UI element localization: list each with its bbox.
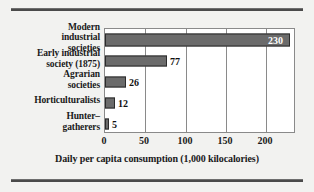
x-tick-label: 150: [218, 135, 233, 146]
category-label: Horticulturalists: [0, 95, 100, 106]
plot-area: 2307726125: [104, 28, 295, 133]
bar-value-label: 26: [129, 76, 139, 87]
bar[interactable]: [105, 33, 290, 46]
bar[interactable]: [105, 76, 126, 87]
category-label-line: Hunter–: [0, 111, 100, 122]
category-label: Hunter–gatherers: [0, 111, 100, 132]
category-label-line: Modern: [0, 22, 100, 33]
bar[interactable]: [105, 118, 109, 129]
category-label: Early industrialsociety (1875): [0, 48, 100, 69]
bar-value-label: 12: [118, 97, 128, 108]
x-tick-label: 200: [258, 135, 273, 146]
category-label-line: Agrarian: [0, 69, 100, 80]
category-label-line: gatherers: [0, 122, 100, 133]
category-label-line: society (1875): [0, 59, 100, 70]
bar[interactable]: [105, 97, 115, 108]
bar-row: 230: [105, 29, 294, 50]
category-label-line: Early industrial: [0, 48, 100, 59]
x-axis-ticks: 050100150200: [104, 135, 295, 149]
bar-value-label: 77: [170, 55, 180, 66]
bar-value-label: 5: [112, 118, 117, 129]
x-tick-label: 0: [102, 135, 107, 146]
bar-row: 5: [105, 113, 294, 134]
top-rule: [11, 8, 303, 11]
x-axis-title: Daily per capita consumption (1,000 kilo…: [0, 153, 314, 164]
bar-value-label: 230: [268, 34, 283, 45]
category-label-line: Horticulturalists: [0, 95, 100, 106]
bar[interactable]: [105, 55, 167, 66]
x-tick-label: 50: [139, 135, 149, 146]
category-axis-labels: ModernindustrialsocietiesEarly industria…: [0, 28, 102, 133]
bar-row: 12: [105, 92, 294, 113]
bar-row: 77: [105, 50, 294, 71]
category-label-line: societies: [0, 80, 100, 91]
bar-chart: ModernindustrialsocietiesEarly industria…: [0, 16, 314, 176]
bar-row: 26: [105, 71, 294, 92]
category-label: Agrariansocieties: [0, 69, 100, 90]
figure: ModernindustrialsocietiesEarly industria…: [0, 0, 314, 192]
x-tick-label: 100: [178, 135, 193, 146]
category-label-line: industrial: [0, 32, 100, 43]
bottom-rule: [11, 179, 303, 182]
